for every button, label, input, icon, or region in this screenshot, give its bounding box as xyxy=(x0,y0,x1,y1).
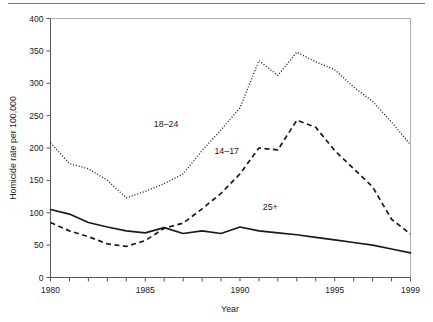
x-axis-title: Year xyxy=(221,304,239,314)
y-axis-tick-labels: 050100150200250300350400 xyxy=(29,14,43,283)
x-tick-label: 1999 xyxy=(401,285,420,295)
series-annotation: 25+ xyxy=(263,202,278,212)
y-axis-title: Homicide rate per 100,000 xyxy=(8,96,18,200)
y-tick-label: 100 xyxy=(29,208,43,218)
line-chart-plot: 050100150200250300350400 198019851990199… xyxy=(0,0,433,322)
y-tick-label: 300 xyxy=(29,78,43,88)
x-tick-label: 1990 xyxy=(231,285,250,295)
y-tick-label: 50 xyxy=(34,240,44,250)
series-line-18-24 xyxy=(51,52,411,198)
chart-figure: 050100150200250300350400 198019851990199… xyxy=(0,0,433,322)
series-line-14-17 xyxy=(51,120,411,246)
x-tick-label: 1995 xyxy=(325,285,344,295)
series-line-25+ xyxy=(51,210,411,253)
x-tick-label: 1980 xyxy=(41,285,60,295)
y-tick-label: 150 xyxy=(29,175,43,185)
x-axis-tick-labels: 19801985199019951999 xyxy=(41,285,420,295)
series-annotation: 18–24 xyxy=(154,119,179,129)
y-tick-label: 250 xyxy=(29,111,43,121)
series-annotation: 14–17 xyxy=(214,146,239,156)
y-tick-label: 200 xyxy=(29,143,43,153)
x-tick-label: 1985 xyxy=(136,285,155,295)
y-tick-label: 350 xyxy=(29,46,43,56)
y-tick-label: 0 xyxy=(39,273,44,283)
y-tick-label: 400 xyxy=(29,14,43,24)
